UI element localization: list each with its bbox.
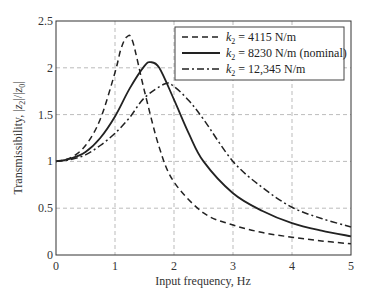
legend-label: k2 = 12,345 N/m: [226, 62, 306, 78]
y-tick-label: 2.5: [38, 14, 53, 28]
curve-dashdot: [56, 83, 351, 227]
y-tick-label: 1.5: [38, 108, 53, 122]
x-tick-label: 3: [230, 259, 236, 273]
y-tick-label: 0.5: [38, 201, 53, 215]
x-axis-label: Input frequency, Hz: [155, 274, 251, 288]
x-tick-label: 2: [171, 259, 177, 273]
legend: k2 = 4115 N/mk2 = 8230 N/m (nominal)k2 =…: [175, 27, 347, 80]
x-tick-label: 5: [348, 259, 354, 273]
y-axis-label: Transmissibility, |z2|/|z0|: [11, 81, 27, 194]
transmissibility-chart: 012345 00.511.522.5 Input frequency, Hz …: [0, 0, 367, 300]
svg-text:Transmissibility, |z2|/|z0|: Transmissibility, |z2|/|z0|: [11, 81, 27, 194]
x-tick-label: 1: [112, 259, 118, 273]
y-axis-ticks: 00.511.522.5: [38, 14, 53, 262]
y-tick-label: 1: [47, 154, 53, 168]
legend-label: k2 = 8230 N/m (nominal): [226, 46, 347, 62]
x-tick-label: 4: [289, 259, 295, 273]
legend-label: k2 = 4115 N/m: [226, 30, 297, 46]
x-tick-label: 0: [53, 259, 59, 273]
x-axis-ticks: 012345: [53, 259, 354, 273]
y-tick-label: 2: [47, 61, 53, 75]
y-tick-label: 0: [47, 248, 53, 262]
curve-solid: [56, 62, 351, 236]
